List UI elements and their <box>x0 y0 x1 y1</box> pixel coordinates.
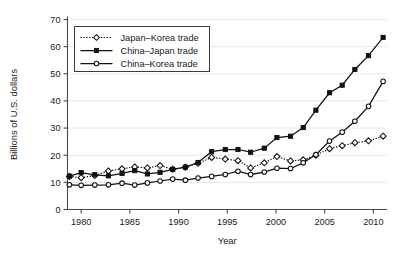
data-point-marker <box>157 163 163 169</box>
data-point-marker <box>79 183 84 188</box>
data-point-marker <box>94 61 99 66</box>
data-point-marker <box>249 150 253 154</box>
x-tick-label: 1985 <box>120 217 140 227</box>
data-point-marker <box>340 130 345 135</box>
data-point-marker <box>381 35 385 39</box>
data-point-marker <box>288 158 294 164</box>
data-point-marker <box>171 167 175 171</box>
x-axis-title: Year <box>218 235 237 246</box>
data-point-marker <box>301 125 305 129</box>
x-tick-label: 2005 <box>314 217 334 227</box>
data-point-marker <box>223 172 228 177</box>
data-point-marker <box>144 165 150 171</box>
y-tick-label: 10 <box>50 178 60 188</box>
data-point-marker <box>288 166 293 171</box>
data-point-marker <box>210 150 214 154</box>
data-point-marker <box>236 147 240 151</box>
data-point-marker <box>327 146 333 152</box>
x-tick-label: 1995 <box>217 217 237 227</box>
legend-label: China–Japan trade <box>121 46 199 56</box>
data-point-marker <box>223 147 227 151</box>
data-point-marker <box>158 170 162 174</box>
x-tick-label: 1980 <box>71 217 91 227</box>
data-point-marker <box>183 165 187 169</box>
line-chart: 0102030405060701980198519901995200020052… <box>0 0 394 261</box>
data-point-marker <box>133 169 137 173</box>
data-point-marker <box>366 54 370 58</box>
data-point-marker <box>275 135 279 139</box>
y-tick-label: 60 <box>50 42 60 52</box>
data-point-marker <box>352 140 358 146</box>
y-tick-label: 0 <box>55 205 60 215</box>
x-tick-label: 2010 <box>363 217 383 227</box>
data-point-marker <box>78 175 84 181</box>
data-point-marker <box>145 181 150 186</box>
data-point-marker <box>314 152 319 157</box>
data-point-marker <box>262 146 266 150</box>
legend-label: Japan–Korea trade <box>121 33 199 43</box>
data-point-marker <box>106 183 111 188</box>
y-tick-label: 50 <box>50 69 60 79</box>
data-point-marker <box>248 172 253 177</box>
data-point-marker <box>353 67 357 71</box>
data-point-marker <box>261 160 267 166</box>
data-point-marker <box>170 177 175 182</box>
series-3 <box>67 79 385 188</box>
data-point-marker <box>381 79 386 84</box>
series-line <box>69 81 383 185</box>
data-point-marker <box>314 108 318 112</box>
y-tick-label: 30 <box>50 123 60 133</box>
data-point-marker <box>366 104 371 109</box>
data-point-marker <box>301 161 306 166</box>
data-point-marker <box>106 174 110 178</box>
data-point-marker <box>248 165 254 171</box>
data-point-marker <box>380 133 386 139</box>
data-point-marker <box>79 170 83 174</box>
chart-container: 0102030405060701980198519901995200020052… <box>0 0 394 261</box>
data-point-marker <box>132 183 137 188</box>
data-point-marker <box>340 83 344 87</box>
data-point-marker <box>120 171 124 175</box>
y-tick-label: 40 <box>50 96 60 106</box>
x-tick-label: 2000 <box>266 217 286 227</box>
data-point-marker <box>120 181 125 186</box>
legend: Japan–Korea tradeChina–Japan tradeChina–… <box>75 27 210 72</box>
data-point-marker <box>196 160 200 164</box>
data-point-marker <box>67 183 72 188</box>
data-point-marker <box>288 134 292 138</box>
data-point-marker <box>183 178 188 183</box>
data-point-marker <box>105 168 111 174</box>
data-point-marker <box>222 156 228 162</box>
y-axis-title: Billions of U.S. dollars <box>8 69 19 160</box>
data-point-marker <box>158 179 163 184</box>
data-point-marker <box>365 138 371 144</box>
legend-label: China–Korea trade <box>121 59 198 69</box>
data-point-marker <box>275 166 280 171</box>
data-point-marker <box>94 48 98 52</box>
data-point-marker <box>339 143 345 149</box>
data-point-marker <box>236 169 241 174</box>
data-point-marker <box>235 158 241 164</box>
data-point-marker <box>353 119 358 124</box>
y-tick-label: 70 <box>50 15 60 25</box>
data-point-marker <box>274 154 280 160</box>
data-point-marker <box>327 139 332 144</box>
data-point-marker <box>327 91 331 95</box>
data-point-marker <box>196 176 201 181</box>
y-tick-label: 20 <box>50 151 60 161</box>
data-point-marker <box>262 170 267 175</box>
data-point-marker <box>67 174 71 178</box>
x-tick-label: 1990 <box>168 217 188 227</box>
data-point-marker <box>145 172 149 176</box>
data-point-marker <box>209 174 214 179</box>
data-point-marker <box>93 173 97 177</box>
data-point-marker <box>92 183 97 188</box>
